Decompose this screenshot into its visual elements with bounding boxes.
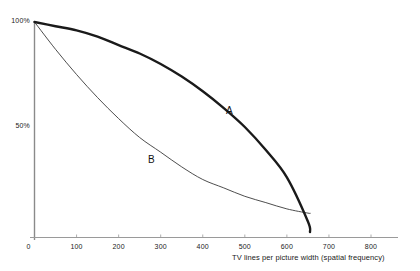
- curve-a-label: A: [226, 105, 233, 116]
- x-tick-label-400: 400: [188, 243, 218, 250]
- x-tick-label-0: 0: [14, 243, 44, 250]
- x-tick-label-500: 500: [230, 243, 260, 250]
- curve-a-path: [35, 22, 311, 232]
- y-tick-label-100: 100%: [2, 17, 30, 24]
- x-tick-label-100: 100: [62, 243, 92, 250]
- x-tick-label-600: 600: [272, 243, 302, 250]
- x-tick-label-700: 700: [314, 243, 344, 250]
- x-tick-label-200: 200: [104, 243, 134, 250]
- curve-b-label: B: [148, 154, 155, 165]
- curve-b-path: [35, 22, 311, 213]
- y-tick-label-50: 50%: [2, 122, 30, 129]
- x-tick-label-800: 800: [356, 243, 386, 250]
- x-tick-label-300: 300: [146, 243, 176, 250]
- x-axis-title: TV lines per picture width (spatial freq…: [232, 253, 385, 262]
- mtf-chart: 100% 50% 0 100 200 300 400 500 600 700 8…: [0, 0, 420, 271]
- chart-plot-area: [0, 0, 420, 271]
